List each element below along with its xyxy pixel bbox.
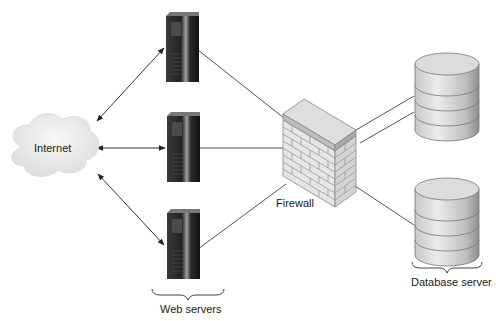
internet-label: Internet bbox=[34, 142, 71, 154]
firewall-icon bbox=[283, 99, 356, 207]
database-cylinder-1 bbox=[415, 53, 479, 141]
web-servers-brace bbox=[152, 289, 224, 300]
database-cylinder-2 bbox=[415, 178, 479, 266]
database-server-label: Database server bbox=[411, 276, 492, 288]
network-diagram bbox=[0, 0, 496, 321]
web-servers-label: Web servers bbox=[160, 303, 222, 315]
web-server-2 bbox=[167, 112, 200, 182]
firewall-label: Firewall bbox=[276, 197, 314, 209]
web-server-1 bbox=[166, 12, 199, 82]
web-server-3 bbox=[167, 209, 200, 279]
internet-links bbox=[97, 48, 165, 245]
